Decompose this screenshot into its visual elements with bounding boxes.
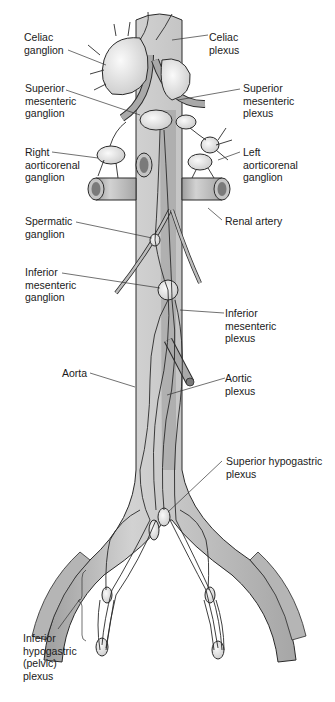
label-celiac-ganglion: Celiac ganglion [24, 31, 64, 56]
label-inferior-hypogastric-plexus: Inferior hypogastric (pelvic) plexus [23, 632, 77, 682]
label-superior-hypogastric-plexus: Superior hypogastric plexus [226, 455, 322, 480]
label-right-aorticorenal-ganglion: Right aorticorenal ganglion [25, 146, 80, 184]
label-spermatic-ganglion: Spermatic ganglion [25, 215, 72, 240]
label-inferior-mesenteric-plexus: Inferior mesenteric plexus [225, 307, 276, 345]
label-aortic-plexus: Aortic plexus [225, 372, 255, 397]
right-aorticorenal-ganglion-shape [97, 146, 125, 164]
celiac-ganglion-right-shape [161, 59, 190, 100]
left-aorticorenal-ganglion-shape [188, 154, 212, 170]
label-renal-artery: Renal artery [225, 215, 282, 228]
celiac-ganglion-shape [102, 38, 148, 95]
label-inferior-mesenteric-ganglion: Inferior mesenteric ganglion [25, 266, 76, 304]
label-left-aorticorenal-ganglion: Left aorticorenal ganglion [243, 146, 298, 184]
label-superior-mesenteric-ganglion: Superior mesenteric ganglion [25, 82, 76, 120]
superior-mesenteric-ganglion-shape [140, 110, 172, 130]
label-aorta: Aorta [62, 367, 87, 380]
label-celiac-plexus: Celiac plexus [209, 31, 239, 56]
label-superior-mesenteric-plexus: Superior mesenteric plexus [243, 82, 294, 120]
